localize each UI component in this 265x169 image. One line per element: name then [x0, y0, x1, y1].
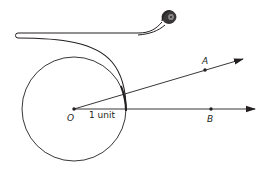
point-b: [209, 107, 212, 110]
ray-oa: [74, 59, 243, 109]
point-a: [203, 68, 206, 71]
label-radius: 1 unit: [89, 110, 115, 120]
label-o: O: [67, 113, 74, 123]
label-a: A: [201, 56, 208, 66]
point-o: [72, 107, 75, 110]
tape-roll-icon: [162, 11, 176, 24]
diagram-canvas: O 1 unit A B: [0, 0, 265, 169]
tape-strip: [16, 22, 166, 111]
label-b: B: [207, 114, 213, 124]
